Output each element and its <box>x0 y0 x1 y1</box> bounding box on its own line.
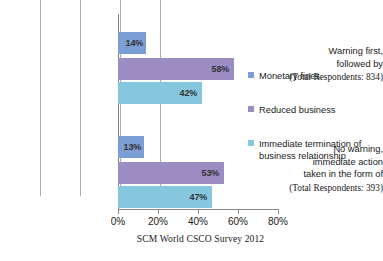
legend-swatch-icon <box>248 140 254 146</box>
chart-caption: SCM World CSCO Survey 2012 <box>0 233 383 244</box>
bar-g2-immediate-termination: 47% <box>118 186 212 208</box>
category-line-1: Warning first, <box>271 45 383 58</box>
gridline-40 <box>80 0 81 196</box>
x-tick-label-20: 20% <box>138 216 178 227</box>
legend-label: Immediate termination of <box>259 138 383 150</box>
x-tick-0 <box>118 210 119 214</box>
bar-value-label: 47% <box>190 192 207 202</box>
legend: Monetary fines Reduced business Immediat… <box>248 70 383 184</box>
legend-label: Reduced business <box>259 104 383 116</box>
bar-g1-reduced-business: 58% <box>118 58 234 80</box>
gridline-20 <box>40 0 41 196</box>
x-tick-label-80: 80% <box>258 216 298 227</box>
bar-g2-reduced-business: 53% <box>118 162 224 184</box>
bar-value-label: 13% <box>124 142 141 152</box>
x-tick-label-40: 40% <box>178 216 218 227</box>
category-line-2: followed by <box>271 58 383 71</box>
x-tick-20 <box>158 210 159 214</box>
legend-swatch-icon <box>248 106 254 112</box>
bar-value-label: 58% <box>212 64 229 74</box>
x-tick-80 <box>278 210 279 214</box>
bar-value-label: 14% <box>126 38 143 48</box>
bar-g2-monetary-fines: 13% <box>118 136 144 158</box>
x-tick-label-0: 0% <box>98 216 138 227</box>
bar-value-label: 42% <box>180 88 197 98</box>
legend-item-immediate-termination: Immediate termination of business relati… <box>248 138 383 162</box>
bar-g1-immediate-termination: 42% <box>118 82 202 104</box>
legend-swatch-icon <box>248 72 254 78</box>
legend-item-reduced-business: Reduced business <box>248 104 383 116</box>
legend-label: Monetary fines <box>259 70 383 82</box>
x-tick-40 <box>198 210 199 214</box>
x-tick-60 <box>238 210 239 214</box>
x-tick-label-60: 60% <box>218 216 258 227</box>
legend-item-monetary-fines: Monetary fines <box>248 70 383 82</box>
bar-value-label: 53% <box>202 168 219 178</box>
chart-figure: 14% 58% 42% 13% 53% 47% Warning first, f… <box>0 0 383 261</box>
legend-label-line2: business relationship <box>259 150 383 162</box>
bar-g1-monetary-fines: 14% <box>118 32 146 54</box>
